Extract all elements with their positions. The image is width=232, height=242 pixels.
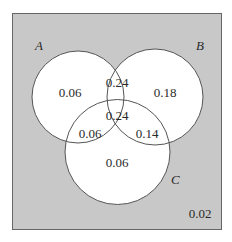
region-c-only: 0.06	[106, 155, 129, 170]
region-a-b-c: 0.24	[106, 108, 129, 123]
region-b-only: 0.18	[154, 85, 177, 100]
region-a-and-b: 0.24	[106, 75, 129, 90]
region-b-and-c: 0.14	[136, 126, 159, 141]
set-label-a: A	[34, 38, 43, 53]
region-a-only: 0.06	[59, 85, 82, 100]
region-a-and-c: 0.06	[79, 126, 102, 141]
region-outside: 0.02	[189, 206, 212, 221]
set-label-c: C	[171, 172, 180, 187]
set-label-b: B	[196, 38, 204, 53]
venn-diagram: A B C 0.06 0.24 0.18 0.24 0.06 0.14 0.06…	[0, 0, 232, 242]
